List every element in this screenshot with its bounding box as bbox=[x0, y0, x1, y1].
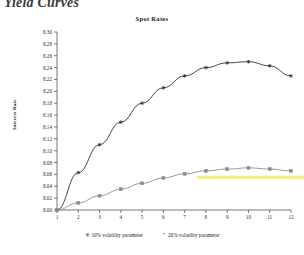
series-marker bbox=[56, 209, 59, 212]
legend-label: 10% volatility parameter bbox=[91, 232, 143, 238]
legend-item: +20% volatility parameter bbox=[161, 231, 220, 238]
chart-legend: ✳10% volatility parameter+20% volatility… bbox=[0, 231, 304, 238]
series-line-1 bbox=[57, 168, 291, 210]
series-marker bbox=[141, 182, 144, 185]
legend-label: 20% volatility parameter bbox=[168, 232, 220, 238]
series-marker bbox=[226, 168, 229, 171]
series-marker bbox=[162, 176, 165, 179]
series-marker bbox=[183, 172, 186, 175]
asterisk-marker-icon: ✳ bbox=[84, 231, 90, 238]
series-marker bbox=[204, 169, 207, 172]
spot-rates-chart: Spot Rates Interest Rate 8.308.288.268.2… bbox=[0, 0, 304, 255]
series-marker bbox=[119, 188, 122, 191]
series-marker bbox=[77, 201, 80, 204]
series-marker bbox=[98, 194, 101, 197]
plot-canvas bbox=[0, 0, 304, 255]
legend-item: ✳10% volatility parameter bbox=[84, 231, 143, 238]
series-line-0 bbox=[57, 62, 291, 210]
series-marker bbox=[247, 166, 250, 169]
series-marker bbox=[268, 168, 271, 171]
series-marker bbox=[290, 169, 293, 172]
plus-marker-icon: + bbox=[161, 231, 167, 237]
